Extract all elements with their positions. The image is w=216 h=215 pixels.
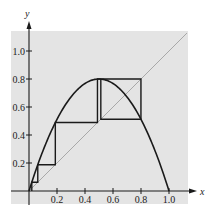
y-tick-label: 0.6 — [13, 102, 26, 113]
y-axis-arrow-icon — [27, 21, 32, 29]
y-tick-label: 0.4 — [13, 130, 26, 141]
y-axis-label: y — [24, 8, 30, 19]
x-axis-label: x — [199, 186, 205, 197]
cobweb-chart: x y 0.2 0.4 0.6 0.8 1.0 0.2 0.4 0.6 0.8 … — [0, 0, 216, 215]
x-tick-label: 1.0 — [163, 194, 176, 205]
x-axis-arrow-icon — [189, 189, 197, 194]
x-tick-label: 0.4 — [79, 194, 92, 205]
y-tick-label: 0.2 — [13, 158, 26, 169]
x-tick-label: 0.8 — [135, 194, 148, 205]
x-tick-label: 0.2 — [51, 194, 64, 205]
y-tick-label: 1.0 — [13, 46, 26, 57]
x-tick-label: 0.6 — [107, 194, 120, 205]
y-tick-label: 0.8 — [13, 74, 26, 85]
